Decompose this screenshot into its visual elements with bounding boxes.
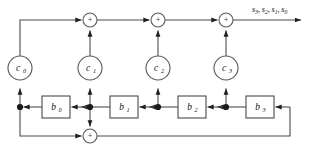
coefficient-nodes: c 0 c 1 c 2 c 3 <box>8 56 238 80</box>
gain-box-b3-rect[interactable] <box>246 96 274 118</box>
gain-box-b0-label: b <box>51 102 56 112</box>
gain-box-b1-label: b <box>119 102 124 112</box>
output-label-text: s3,s2,s1,s0 <box>252 5 288 15</box>
junction-dot-tap1 <box>87 104 93 110</box>
gain-box-b1-rect[interactable] <box>110 96 138 118</box>
node-c1[interactable]: c 1 <box>78 56 102 80</box>
gain-box-b2-rect[interactable] <box>178 96 206 118</box>
adder-top-2[interactable]: + <box>151 13 165 27</box>
adder-top-3-symbol: + <box>224 16 228 23</box>
node-c0[interactable]: c 0 <box>8 56 32 80</box>
node-c2[interactable]: c 2 <box>146 56 170 80</box>
node-c2-sub: 2 <box>161 67 164 74</box>
adder-top-1[interactable]: + <box>83 13 97 27</box>
output-term-2-sep: , <box>278 5 280 14</box>
junction-dot-tap0 <box>17 104 23 110</box>
gain-box-b0-rect[interactable] <box>42 96 70 118</box>
adder-top-1-symbol: + <box>88 16 92 23</box>
output-term-1-sep: , <box>268 5 270 14</box>
junction-dot-tap2 <box>155 104 161 110</box>
gain-box-b2-label: b <box>187 102 192 112</box>
gain-box-b3[interactable]: b 3 <box>246 96 274 118</box>
output-term-3-sub: 0 <box>285 9 288 15</box>
output-term-0-sep: , <box>258 5 260 14</box>
output-label: s3,s2,s1,s0 <box>252 5 288 15</box>
gain-box-b2-sub: 2 <box>194 106 197 113</box>
gain-box-b3-sub: 3 <box>261 106 265 113</box>
adder-top-2-symbol: + <box>156 16 160 23</box>
gain-box-b1-sub: 1 <box>126 106 129 113</box>
signal-flow-diagram: c 0 c 1 c 2 c 3 b 0 <box>0 0 315 153</box>
wire-c0-to-adder1 <box>20 20 82 56</box>
junction-dot-tap3 <box>223 104 229 110</box>
gain-box-b1[interactable]: b 1 <box>110 96 138 118</box>
gain-box-b0[interactable]: b 0 <box>42 96 70 118</box>
gain-box-b2[interactable]: b 2 <box>178 96 206 118</box>
adder-bottom-symbol: + <box>88 132 92 139</box>
adder-bottom[interactable]: + <box>83 129 97 143</box>
diagram-canvas: c 0 c 1 c 2 c 3 b 0 <box>0 0 315 153</box>
node-c3-sub: 3 <box>228 67 232 74</box>
node-c1-sub: 1 <box>93 67 96 74</box>
adder-top-3[interactable]: + <box>219 13 233 27</box>
gain-box-b3-label: b <box>255 102 260 112</box>
node-c3[interactable]: c 3 <box>214 56 238 80</box>
